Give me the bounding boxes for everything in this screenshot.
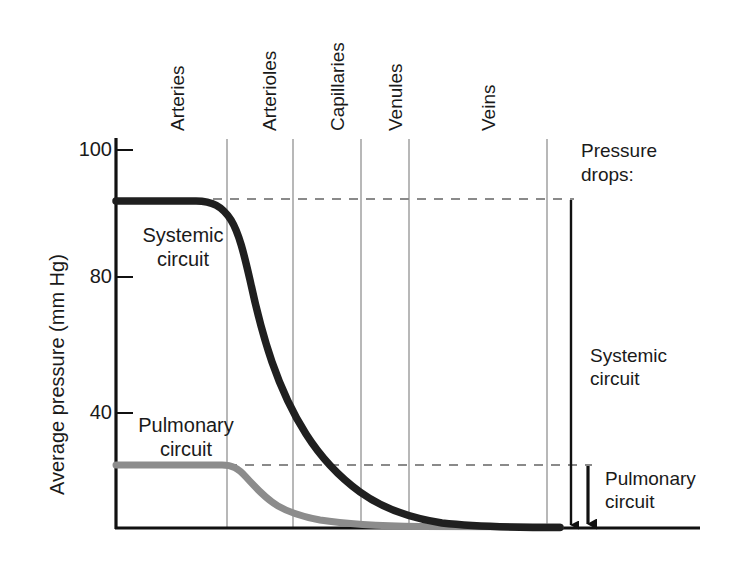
pressure-drops-heading-line2: drops:: [581, 164, 634, 186]
y-tick-label-100: 100: [52, 138, 112, 162]
systemic-drop-label-line2: circuit: [590, 368, 640, 390]
column-label-capillaries: Capillaries: [327, 42, 349, 131]
pulmonary-curve-label-line2: circuit: [111, 438, 261, 462]
y-axis-title: Average pressure (mm Hg): [46, 254, 70, 495]
y-tick-label-80: 80: [52, 265, 112, 289]
systemic-curve-label-line1: Systemic: [113, 224, 253, 248]
column-label-arteries: Arteries: [167, 66, 189, 131]
column-label-arterioles: Arterioles: [259, 51, 281, 131]
pulmonary-curve-label-line1: Pulmonary: [111, 414, 261, 438]
systemic-curve-label-line2: circuit: [113, 248, 253, 272]
pressure-gradient-chart: Average pressure (mm Hg) 100 80 40 Arter…: [0, 0, 734, 561]
pulmonary-drop-label-line2: circuit: [605, 491, 655, 513]
section-gridlines: [227, 139, 547, 528]
pressure-drops-heading-line1: Pressure: [581, 140, 657, 162]
column-label-venules: Venules: [385, 63, 407, 131]
y-tick-label-40: 40: [52, 401, 112, 425]
column-label-veins: Veins: [478, 85, 500, 131]
pulmonary-drop-label-line1: Pulmonary: [605, 468, 696, 490]
pressure-drop-arrows: [571, 200, 588, 525]
systemic-drop-label-line1: Systemic: [590, 345, 667, 367]
